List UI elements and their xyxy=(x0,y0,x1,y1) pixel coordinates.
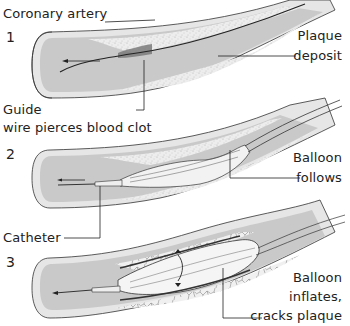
label-coronary-artery: Coronary artery xyxy=(3,6,107,21)
stage-number-1: 1 xyxy=(6,30,15,45)
label-catheter: Catheter xyxy=(3,230,61,245)
stage-number-2: 2 xyxy=(6,147,15,162)
label-wire-pierces-clot: wire pierces blood clot xyxy=(3,120,152,135)
stage-number-3: 3 xyxy=(6,255,15,270)
label-cracks-plaque: cracks plaque xyxy=(250,308,342,323)
label-plaque: Plaque xyxy=(297,28,342,43)
label-deposit: deposit xyxy=(293,48,342,63)
angioplasty-diagram: Coronary artery 1 Plaque deposit Guide w… xyxy=(0,0,350,326)
label-follows: follows xyxy=(296,170,342,185)
label-balloon-2: Balloon xyxy=(293,150,342,165)
label-guide: Guide xyxy=(3,102,42,117)
label-inflates: inflates, xyxy=(289,289,342,304)
label-balloon-3: Balloon xyxy=(293,270,342,285)
